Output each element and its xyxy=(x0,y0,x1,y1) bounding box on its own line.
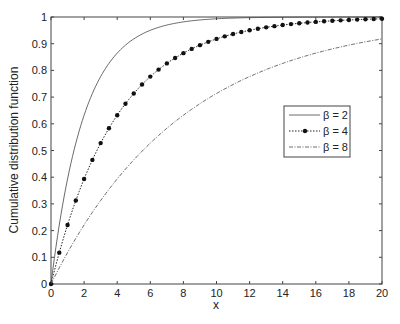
y-tick-label: 0.9 xyxy=(32,38,47,50)
y-tick-label: 0.6 xyxy=(32,118,47,130)
marker-beta-4 xyxy=(256,27,260,31)
x-tick-label: 20 xyxy=(376,287,388,299)
x-tick-label: 12 xyxy=(243,287,255,299)
y-tick-label: 1 xyxy=(41,11,47,23)
x-tick-label: 6 xyxy=(147,287,153,299)
marker-beta-4 xyxy=(57,250,61,254)
x-tick-label: 4 xyxy=(114,287,120,299)
marker-beta-4 xyxy=(347,18,351,22)
marker-beta-4 xyxy=(65,223,69,227)
x-tick-label: 8 xyxy=(180,287,186,299)
marker-beta-4 xyxy=(305,20,309,24)
marker-beta-4 xyxy=(189,47,193,51)
legend: β = 2 β = 4 β = 8 xyxy=(284,106,350,157)
marker-beta-4 xyxy=(363,17,367,21)
y-tick-label: 0.3 xyxy=(32,198,47,210)
marker-beta-4 xyxy=(198,43,202,47)
marker-beta-4 xyxy=(372,17,376,21)
marker-beta-4 xyxy=(355,17,359,21)
marker-beta-4 xyxy=(132,91,136,95)
cdf-chart: 0246810121416182000.10.20.30.40.50.60.70… xyxy=(0,0,400,324)
marker-beta-4 xyxy=(107,126,111,130)
marker-beta-4 xyxy=(247,28,251,32)
marker-beta-4 xyxy=(297,21,301,25)
x-tick-label: 14 xyxy=(277,287,289,299)
y-tick-label: 0.1 xyxy=(32,251,47,263)
marker-beta-4 xyxy=(314,20,318,24)
legend-item-beta-2: β = 2 xyxy=(323,109,348,121)
marker-beta-4 xyxy=(115,113,119,117)
marker-beta-4 xyxy=(74,198,78,202)
x-tick-label: 18 xyxy=(343,287,355,299)
marker-beta-4 xyxy=(338,18,342,22)
marker-beta-4 xyxy=(98,141,102,145)
x-axis-label: x xyxy=(213,298,219,312)
marker-beta-4 xyxy=(239,30,243,34)
marker-beta-4 xyxy=(322,19,326,23)
marker-beta-4 xyxy=(223,34,227,38)
marker-beta-4 xyxy=(181,51,185,55)
legend-item-beta-4: β = 4 xyxy=(323,125,348,137)
marker-beta-4 xyxy=(281,23,285,27)
y-tick-label: 0.8 xyxy=(32,64,47,76)
marker-beta-4 xyxy=(148,74,152,78)
y-tick-label: 0.4 xyxy=(32,171,47,183)
marker-beta-4 xyxy=(206,40,210,44)
marker-beta-4 xyxy=(123,101,127,105)
marker-beta-4 xyxy=(231,32,235,36)
marker-beta-4 xyxy=(82,177,86,181)
curve-beta-8 xyxy=(51,39,382,284)
marker-beta-4 xyxy=(380,17,384,21)
x-tick-label: 16 xyxy=(310,287,322,299)
y-tick-label: 0.5 xyxy=(32,145,47,157)
marker-beta-4 xyxy=(272,24,276,28)
y-tick-label: 0.2 xyxy=(32,225,47,237)
x-tick-label: 0 xyxy=(48,287,54,299)
marker-beta-4 xyxy=(90,158,94,162)
marker-beta-4 xyxy=(214,37,218,41)
y-tick-label: 0.7 xyxy=(32,91,47,103)
y-axis-label: Cumulative distribution function xyxy=(7,67,21,234)
marker-beta-4 xyxy=(289,22,293,26)
marker-beta-4 xyxy=(165,61,169,65)
legend-item-beta-8: β = 8 xyxy=(323,141,348,153)
marker-beta-4 xyxy=(330,19,334,23)
marker-beta-4 xyxy=(264,25,268,29)
y-tick-label: 0 xyxy=(41,278,47,290)
marker-beta-4 xyxy=(156,67,160,71)
marker-beta-4 xyxy=(173,56,177,60)
x-tick-label: 2 xyxy=(81,287,87,299)
marker-beta-4 xyxy=(140,82,144,86)
